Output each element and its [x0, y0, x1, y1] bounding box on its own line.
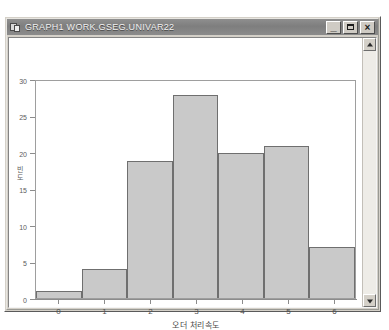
scroll-down-arrow-icon — [367, 299, 373, 303]
y-tick-label: 20 — [19, 150, 27, 157]
histogram-bars — [36, 81, 355, 298]
y-tick-label: 30 — [19, 77, 27, 84]
x-tick-label: 2 — [148, 307, 152, 316]
plot-frame — [35, 80, 356, 299]
close-button[interactable]: × — [360, 21, 375, 34]
x-tick-label: 5 — [286, 307, 290, 316]
y-tick-label: 25 — [19, 114, 27, 121]
y-tick-label: 0 — [23, 296, 27, 303]
x-axis-title: 오더 처리속도 — [35, 319, 357, 330]
scroll-up-arrow-icon — [367, 42, 373, 46]
x-tick-label: 3 — [194, 307, 198, 316]
close-icon: × — [361, 23, 374, 33]
scroll-up-arrow-button[interactable] — [363, 38, 376, 51]
x-tick: 6 — [334, 299, 335, 304]
maximize-button[interactable] — [343, 21, 358, 34]
graph-client-area: 빈도 051015202530 0123456 오더 처리속도 — [8, 37, 377, 308]
histogram-bar — [127, 161, 173, 298]
scroll-down-arrow-button[interactable] — [363, 294, 376, 307]
histogram-bar — [82, 269, 128, 298]
window-titlebar[interactable]: GRAPH1 WORK.GSEG.UNIVAR22 _ × — [7, 19, 378, 35]
x-tick: 3 — [196, 299, 197, 304]
y-axis-title: 빈도 — [15, 166, 25, 182]
x-tick-label: 6 — [332, 307, 336, 316]
histogram-bar — [173, 95, 219, 298]
chart-canvas: 빈도 051015202530 0123456 오더 처리속도 — [9, 38, 362, 307]
window-title: GRAPH1 WORK.GSEG.UNIVAR22 — [25, 22, 326, 32]
window-controls: _ × — [326, 21, 377, 34]
minimize-icon: _ — [327, 21, 340, 32]
x-tick: 0 — [58, 299, 59, 304]
x-tick-label: 4 — [240, 307, 244, 316]
y-tick-label: 15 — [19, 187, 27, 194]
x-tick: 1 — [104, 299, 105, 304]
histogram-bar — [309, 247, 355, 298]
x-tick: 4 — [242, 299, 243, 304]
x-tick-label: 1 — [102, 307, 106, 316]
y-tick-label: 10 — [19, 223, 27, 230]
minimize-button[interactable]: _ — [326, 21, 341, 34]
graph-window-icon — [10, 22, 21, 33]
maximize-icon — [347, 24, 354, 30]
histogram-bar — [218, 153, 264, 298]
y-tick: 0 — [30, 299, 35, 300]
vertical-scrollbar[interactable] — [362, 38, 376, 307]
plot-area — [36, 81, 355, 298]
x-tick: 5 — [288, 299, 289, 304]
histogram-bar — [36, 291, 82, 298]
x-tick: 2 — [150, 299, 151, 304]
x-tick-label: 0 — [56, 307, 60, 316]
histogram-bar — [264, 146, 310, 298]
graph-window: GRAPH1 WORK.GSEG.UNIVAR22 _ × 빈도 0510152… — [4, 16, 381, 312]
y-tick-label: 5 — [23, 260, 27, 267]
